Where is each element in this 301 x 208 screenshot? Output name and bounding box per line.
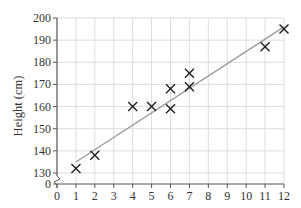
- x-tick-label: 8: [205, 189, 211, 203]
- fit-line-group: [76, 27, 284, 162]
- x-tick-label: 10: [240, 189, 252, 203]
- x-tick-labels: 0123456789101112: [54, 189, 290, 203]
- x-tick-label: 12: [278, 189, 290, 203]
- x-tick-label: 11: [259, 189, 271, 203]
- scatter-chart: 0123456789101112 01301401501601701801902…: [0, 0, 301, 208]
- y-tick-label: 200: [33, 11, 51, 25]
- y-axis-label: Height (cm): [11, 76, 25, 137]
- x-tick-label: 2: [92, 189, 98, 203]
- x-tick-label: 9: [224, 189, 230, 203]
- x-tick-label: 6: [168, 189, 174, 203]
- y-tick-label: 180: [33, 55, 51, 69]
- y-tick-label: 140: [33, 144, 51, 158]
- axes: [53, 18, 284, 188]
- x-tick-label: 0: [54, 189, 60, 203]
- y-tick-label: 150: [33, 122, 51, 136]
- x-tick-label: 7: [186, 189, 192, 203]
- y-tick-label: 190: [33, 33, 51, 47]
- y-tick-labels: 0130140150160170180190200: [33, 11, 51, 191]
- x-tick-label: 3: [111, 189, 117, 203]
- x-tick-label: 1: [73, 189, 79, 203]
- line-of-best-fit: [76, 27, 284, 162]
- y-tick-label: 170: [33, 77, 51, 91]
- y-tick-label: 160: [33, 100, 51, 114]
- x-tick-label: 5: [149, 189, 155, 203]
- y-tick-label: 130: [33, 166, 51, 180]
- x-tick-label: 4: [130, 189, 136, 203]
